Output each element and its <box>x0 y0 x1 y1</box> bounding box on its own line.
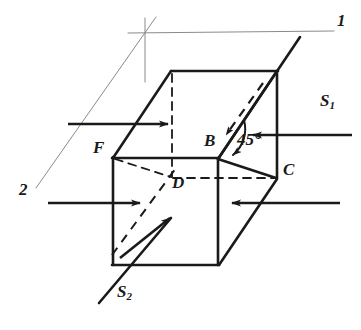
source-label-S1: S1 <box>320 92 335 109</box>
ray-S2-dashed-line <box>112 168 176 255</box>
vertex-label-C: C <box>283 161 294 178</box>
vertex-label-D: D <box>172 174 184 191</box>
edge-backtopleft-F <box>113 71 171 158</box>
source-label-S2-subscript: 2 <box>126 290 132 302</box>
cube-hidden-edges <box>115 74 274 178</box>
beam-arrows <box>48 124 352 203</box>
diagram-svg <box>0 0 361 330</box>
source-label-S1-subscript: 1 <box>329 99 335 111</box>
plane-2-oblique <box>36 17 156 188</box>
figure-canvas: F B C D 1 2 45° S1 S2 <box>0 0 361 330</box>
angle-label-45-degrees: 45° <box>237 131 261 148</box>
plane-label-2: 2 <box>19 181 28 198</box>
vertex-label-F: F <box>93 139 104 156</box>
ray-S2-dashed <box>112 168 176 255</box>
vertex-label-B: B <box>204 132 215 149</box>
hidden-edge-F-D <box>115 159 171 177</box>
cube-visible-edges <box>112 71 278 265</box>
ray-S2-line <box>99 218 171 303</box>
ray-S2-arrow-line <box>120 218 170 258</box>
source-label-S2: S2 <box>117 283 132 300</box>
plane-label-1: 1 <box>337 12 346 29</box>
ray-S2 <box>99 218 171 303</box>
edge-C-frontbotright <box>219 179 277 265</box>
ray-S2-arrow <box>120 218 170 258</box>
plane-1-horizontal <box>128 31 334 33</box>
cut-trace-B-C <box>218 159 276 178</box>
